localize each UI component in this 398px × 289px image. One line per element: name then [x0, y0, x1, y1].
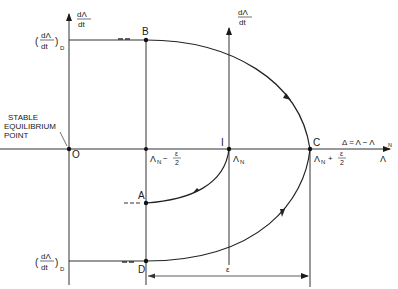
dimension-label: ε: [226, 265, 230, 274]
label-i: I: [221, 137, 224, 148]
x-mark-left-frac-num: ε: [175, 150, 178, 157]
bottom-paren-close: ): [55, 257, 58, 268]
top-tick-sub: D: [60, 45, 65, 51]
right-y-label-den: dt: [239, 18, 246, 27]
x-axis-label: Λ: [380, 154, 386, 164]
point-left-mark: [144, 147, 148, 151]
annotation-line3: POINT: [4, 131, 29, 140]
x-mark-center-sub: N: [240, 159, 244, 165]
annotation-line2: EQUILIBRIUM: [4, 122, 56, 131]
bottom-paren-open: (: [35, 257, 39, 268]
x-mark-right-frac-den: 2: [340, 159, 344, 166]
x-mark-right: Λ: [314, 154, 320, 164]
right-y-label-num: dΛ: [238, 8, 248, 17]
point-o: [67, 147, 71, 151]
top-tick-num: dΛ: [41, 31, 51, 40]
phase-plane-diagram: ε dΛ dt dΛ dt ( dΛ dt ) D ( dΛ dt ) D O …: [0, 0, 398, 289]
annotation-leader: [60, 132, 67, 146]
label-a: A: [138, 190, 145, 201]
trajectory-i-a: [146, 149, 229, 203]
top-paren-open: (: [35, 36, 39, 47]
point-a: [144, 201, 148, 205]
delta-definition: Δ = Λ − Λ: [342, 138, 375, 147]
arrow-b-c: [283, 93, 291, 100]
x-mark-right-op: +: [328, 154, 333, 163]
point-b: [144, 38, 148, 42]
x-mark-left-op: −: [163, 154, 168, 163]
delta-definition-sub: N: [388, 142, 392, 148]
bottom-tick-num: dΛ: [41, 252, 51, 261]
point-d: [144, 259, 148, 263]
top-paren-close: ): [55, 36, 58, 47]
label-o: O: [72, 149, 80, 160]
label-c: C: [313, 137, 320, 148]
x-mark-left: Λ: [150, 154, 156, 164]
x-mark-right-sub: N: [321, 159, 325, 165]
left-y-label-num: dΛ: [77, 10, 87, 19]
bottom-tick-den: dt: [41, 263, 48, 272]
x-mark-center: Λ: [233, 154, 239, 164]
label-d: D: [138, 264, 145, 275]
point-i: [227, 147, 231, 151]
trajectory-c-d: [146, 149, 310, 261]
x-mark-right-frac-num: ε: [340, 150, 343, 157]
x-mark-left-sub: N: [157, 159, 161, 165]
bottom-tick-sub: D: [60, 266, 65, 272]
top-tick-den: dt: [41, 42, 48, 51]
point-c: [308, 147, 312, 151]
dimension-arrow-start: [148, 274, 155, 279]
annotation-line1: STABLE: [8, 113, 38, 122]
x-mark-left-frac-den: 2: [175, 159, 179, 166]
label-b: B: [142, 26, 149, 37]
left-y-label-den: dt: [78, 20, 85, 29]
